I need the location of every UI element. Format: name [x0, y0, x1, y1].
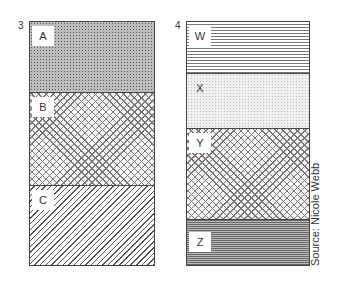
layer-label: C: [32, 190, 54, 210]
layer-label: B: [32, 97, 54, 117]
layer-w: W: [187, 22, 309, 73]
layer-c: C: [30, 185, 154, 265]
layer-label: A: [32, 26, 54, 46]
layer-label: X: [189, 78, 211, 98]
layer-y: Y: [187, 128, 309, 219]
column-number-4: 4: [175, 20, 181, 31]
rock-column-4: W X Y Z: [186, 21, 310, 266]
layer-b: B: [30, 92, 154, 185]
layer-a: A: [30, 22, 154, 92]
source-credit: Source: Nicole Webb: [309, 163, 321, 266]
column-number-3: 3: [18, 20, 24, 31]
rock-column-3: A B C: [29, 21, 155, 266]
layer-label: Z: [189, 232, 211, 252]
layer-z: Z: [187, 219, 309, 265]
layer-x: X: [187, 73, 309, 128]
layer-label: Y: [189, 133, 211, 153]
layer-label: W: [189, 26, 211, 46]
